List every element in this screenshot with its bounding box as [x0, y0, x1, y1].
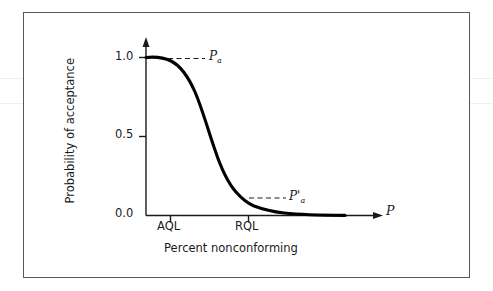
y-axis-title: Probability of acceptance: [65, 51, 77, 211]
annotation-pa-symbol: P: [209, 49, 217, 63]
annotation-probability-acceptance-aql: Pa: [209, 50, 222, 65]
x-axis-title: Percent nonconforming: [151, 243, 311, 255]
y-axis-tick-label-1.0: 1.0: [115, 51, 133, 63]
y-axis-arrowhead: [143, 37, 150, 47]
figure-root: 1.0 0.5 0.0 AQL RQL Probability of accep…: [0, 0, 493, 291]
x-axis-variable-label: P: [386, 205, 394, 218]
annotation-pa-prime-symbol: P: [289, 189, 297, 203]
y-axis-tick-label-0.0: 0.0: [115, 208, 133, 220]
annotation-pa-subscript: a: [217, 56, 222, 65]
oc-curve-path: [146, 57, 345, 215]
y-axis-tick-label-0.5: 0.5: [115, 129, 133, 141]
x-axis-tick-label-aql: AQL: [157, 221, 180, 233]
x-axis-arrowhead: [373, 212, 383, 219]
x-axis-tick-label-rql: RQL: [235, 221, 258, 233]
annotation-probability-acceptance-rql: P'a: [289, 190, 305, 205]
annotation-pa-prime-subscript: a: [300, 196, 305, 205]
